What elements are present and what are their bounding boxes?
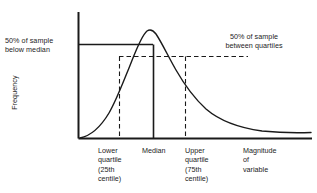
x-axis-label-lower-quartile: Lower quartile (25th centile): [98, 146, 142, 184]
y-axis-label: Frequency: [10, 63, 19, 123]
left-annotation-note: 50% of sample below median: [5, 36, 75, 54]
x-axis-label-median: Median: [142, 146, 184, 155]
x-axis-label-magnitude: Magnitude of variable: [243, 146, 303, 174]
right-annotation-note: 50% of sample between quartiles: [198, 32, 310, 50]
x-axis-label-upper-quartile: Upper quartile (75th centile): [185, 146, 229, 184]
